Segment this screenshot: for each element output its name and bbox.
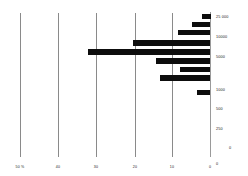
origin-zero-right: 0 (229, 147, 231, 151)
y-tick-label: 5000 (216, 56, 225, 60)
bar (88, 49, 210, 55)
bar (156, 58, 210, 64)
bar (178, 30, 210, 35)
y-tick-label: 0 (216, 163, 218, 167)
bar (133, 40, 210, 46)
x-tick-label: 40 (56, 166, 60, 170)
bar (202, 14, 211, 19)
bar (192, 22, 210, 27)
x-tick-label: 10 (170, 166, 174, 170)
x-tick-label: 0 (209, 166, 211, 170)
bar-chart: 50 %403020100 025 0001000050001000500250… (0, 0, 248, 176)
bar (180, 67, 210, 72)
y-tick-label: 500 (216, 108, 223, 112)
x-tick-label: 30 (94, 166, 98, 170)
y-tick-label: 10000 (216, 36, 227, 40)
bar (160, 75, 210, 81)
x-tick-label: 20 (133, 166, 137, 170)
x-tick-label: 50 % (16, 166, 25, 170)
bar (197, 90, 210, 95)
bars-group (0, 0, 248, 176)
y-tick-label: 1000 (216, 89, 225, 93)
y-tick-label: 25 000 (216, 16, 229, 20)
y-tick-label: 250 (216, 128, 223, 132)
